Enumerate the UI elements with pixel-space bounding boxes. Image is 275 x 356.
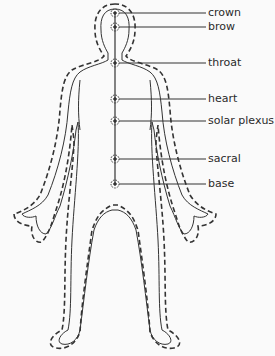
label-brow: brow	[208, 21, 235, 33]
chakra-throat	[111, 59, 206, 67]
label-base: base	[208, 178, 234, 190]
chakra-crown	[111, 9, 206, 17]
chakra-solar-plexus	[111, 117, 206, 125]
label-solar-plexus: solar plexus	[208, 115, 274, 127]
chakra-heart	[111, 95, 206, 103]
chakra-brow	[111, 23, 206, 31]
label-sacral: sacral	[208, 153, 241, 165]
label-crown: crown	[208, 7, 241, 19]
label-heart: heart	[208, 93, 237, 105]
label-throat: throat	[208, 57, 241, 69]
chakra-diagram: crown brow throat heart solar plexus sac…	[0, 0, 275, 356]
